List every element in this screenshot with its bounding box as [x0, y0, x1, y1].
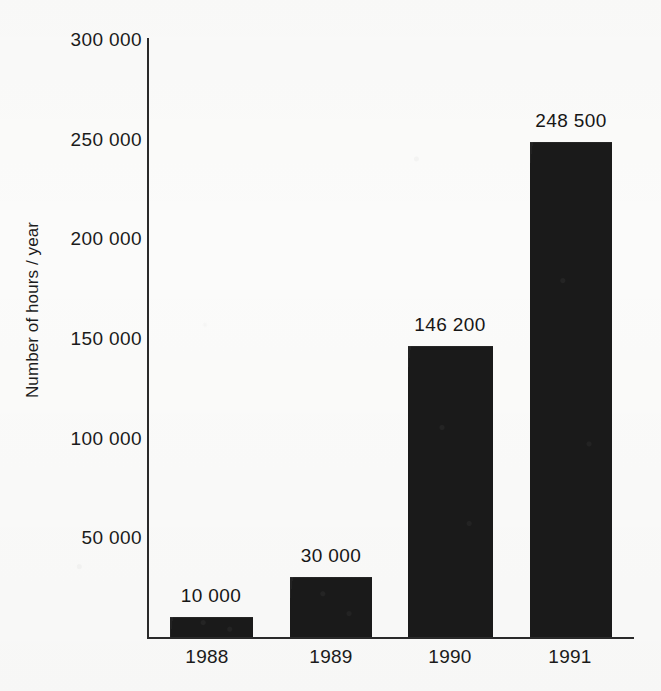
x-tick-label-1988: 1988 [185, 646, 228, 668]
x-tick-label-1989: 1989 [309, 646, 352, 668]
bar-value-label-1989: 30 000 [301, 545, 362, 567]
bar-1989[interactable] [290, 577, 372, 637]
bars-layer: 10 000 30 000 146 200 248 500 [0, 0, 661, 691]
bar-value-label-1991: 248 500 [535, 110, 606, 132]
bar-1990[interactable] [408, 346, 493, 637]
x-tick-label-1991: 1991 [548, 646, 591, 668]
bar-1991[interactable] [530, 142, 612, 637]
bar-value-label-1988: 10 000 [181, 585, 242, 607]
bar-value-label-1990: 146 200 [414, 314, 485, 336]
x-tick-label-1990: 1990 [428, 646, 471, 668]
bar-chart-figure: Number of hours / year 300 000 250 000 2… [0, 0, 661, 691]
bar-1988[interactable] [170, 617, 253, 637]
